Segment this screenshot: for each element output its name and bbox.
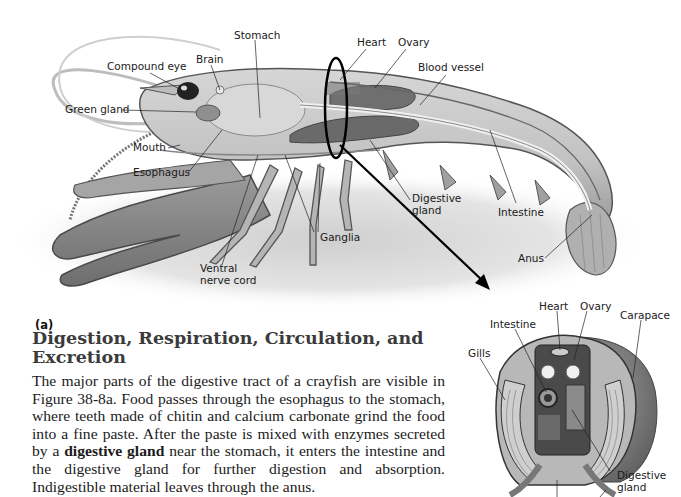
label-esophagus: Esophagus [133,166,190,178]
textbook-page: Stomach Brain Compound eye Heart Ovary B… [0,0,681,497]
label-intestine: Intestine [498,206,544,218]
label-ventral-nerve-cord-2: nerve cord [200,274,256,286]
label-compound-eye: Compound eye [107,60,187,72]
label-b-digestive-gland-2: gland [617,481,646,493]
label-anus: Anus [518,252,544,264]
label-ventral-nerve-cord: Ventral [200,262,237,274]
key-term-digestive-gland: digestive gland [64,442,164,459]
label-digestive-gland-a-2: gland [412,204,441,216]
label-b-gills: Gills [468,347,490,359]
label-b-heart: Heart [539,300,568,312]
label-digestive-gland-a: Digestive [412,192,461,204]
label-heart: Heart [357,36,386,48]
section-paragraph: The major parts of the digestive tract o… [32,372,445,495]
label-mouth: Mouth [133,141,166,153]
section-heading: Digestion, Respiration, Circulation, and… [32,329,452,367]
label-ganglia: Ganglia [320,231,360,243]
label-stomach: Stomach [234,29,280,41]
label-ovary: Ovary [398,36,429,48]
label-b-digestive-gland: Digestive [617,469,666,481]
label-b-ovary: Ovary [580,300,611,312]
compound-eye-organ [177,82,199,100]
label-b-intestine: Intestine [490,318,536,330]
label-blood-vessel: Blood vessel [418,61,484,73]
label-brain: Brain [196,53,224,65]
label-green-gland: Green gland [65,103,129,115]
label-b-carapace: Carapace [620,309,670,321]
